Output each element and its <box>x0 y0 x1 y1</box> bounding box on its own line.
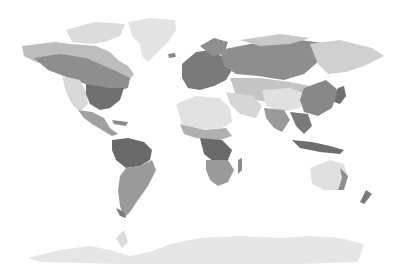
arctic-islands <box>66 22 125 44</box>
india <box>264 108 290 132</box>
indonesia <box>292 140 344 154</box>
africa-tropical <box>200 138 232 162</box>
iceland <box>168 53 176 58</box>
siberia-east <box>310 40 384 74</box>
africa-north <box>176 96 232 130</box>
madagascar <box>238 158 242 174</box>
antarctica <box>28 236 364 264</box>
world-map <box>0 0 407 278</box>
new-zealand <box>360 190 372 204</box>
central-america <box>78 110 118 136</box>
tibet-plateau <box>262 88 306 112</box>
southeast-asia <box>290 112 312 134</box>
africa-south <box>206 160 234 186</box>
caribbean <box>112 120 128 126</box>
antarctic-peninsula <box>116 230 128 248</box>
south-america-south <box>118 160 156 218</box>
